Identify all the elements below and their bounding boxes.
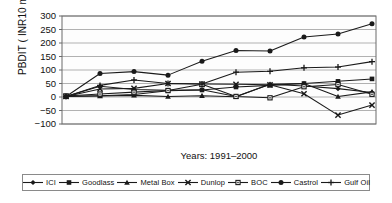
marker-diamond — [30, 180, 35, 185]
legend-item-dunlop[interactable]: Dunlop — [176, 178, 226, 187]
marker-circle — [200, 59, 205, 64]
legend-marker-square-icon — [58, 178, 80, 187]
legend-item-metal-box[interactable]: Metal Box — [115, 178, 175, 187]
legend-marker-diamond-icon — [22, 178, 44, 187]
legend-item-goodlass[interactable]: Goodlass — [57, 178, 116, 187]
marker-small-square-dot — [371, 94, 372, 95]
legend-marker-triangle-icon — [116, 178, 138, 187]
marker-circle — [234, 48, 239, 53]
legend-label: ICI — [46, 178, 56, 187]
legend-label: BOC — [251, 178, 268, 187]
chart-legend: ICIGoodlassMetal BoxDunlopBOCCastrolGulf… — [22, 174, 370, 191]
marker-circle — [370, 21, 375, 26]
marker-circle — [268, 49, 273, 54]
marker-small-square-dot — [167, 90, 168, 91]
legend-marker-circle-icon — [270, 178, 292, 187]
legend-marker-small-square-icon — [227, 178, 249, 187]
plot-area — [0, 0, 392, 203]
marker-circle — [302, 35, 307, 40]
legend-label: Dunlop — [201, 178, 225, 187]
marker-small-square-dot — [133, 91, 134, 92]
chart-container: PBDIT ( INR10 million) −100−500501001502… — [0, 0, 392, 203]
legend-label: Metal Box — [140, 178, 174, 187]
legend-item-gulf-oil[interactable]: Gulf Oil — [319, 178, 371, 187]
x-axis-title: Years: 1991–2000 — [62, 150, 376, 161]
marker-square — [67, 180, 72, 185]
marker-small-square-dot — [337, 84, 338, 85]
legend-label: Goodlass — [82, 178, 115, 187]
marker-square — [200, 88, 205, 93]
marker-square — [370, 77, 375, 82]
legend-marker-x-icon — [177, 178, 199, 187]
marker-small-square-dot — [303, 86, 304, 87]
marker-circle — [278, 180, 283, 185]
legend-item-ici[interactable]: ICI — [21, 178, 57, 187]
marker-small-square-dot — [99, 93, 100, 94]
marker-small-square-dot — [269, 97, 270, 98]
marker-small-square-dot — [237, 182, 238, 183]
marker-circle — [132, 69, 137, 74]
legend-marker-plus-icon — [320, 178, 342, 187]
legend-item-boc[interactable]: BOC — [226, 178, 269, 187]
marker-small-square-dot — [235, 96, 236, 97]
legend-label: Castrol — [294, 178, 318, 187]
marker-circle — [98, 71, 103, 76]
legend-label: Gulf Oil — [344, 178, 370, 187]
legend-item-castrol[interactable]: Castrol — [269, 178, 319, 187]
marker-circle — [166, 73, 171, 78]
marker-circle — [336, 32, 341, 37]
